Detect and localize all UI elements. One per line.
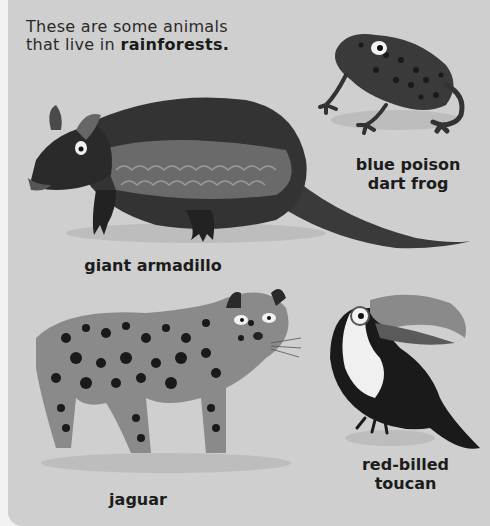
intro-line-2: that live in <box>26 35 120 54</box>
intro-emphasis: rainforests. <box>120 35 229 54</box>
armadillo-label: giant armadillo <box>68 256 238 275</box>
toucan-illustration <box>320 288 490 453</box>
jaguar-label: jaguar <box>103 490 173 509</box>
toucan-label: red-billed toucan <box>343 455 468 493</box>
intro-line-1: These are some animals <box>26 17 228 36</box>
armadillo-illustration <box>16 90 476 250</box>
intro-text: These are some animals that live in rain… <box>26 18 229 54</box>
jaguar-illustration <box>26 278 306 478</box>
book-page: These are some animals that live in rain… <box>8 0 490 526</box>
